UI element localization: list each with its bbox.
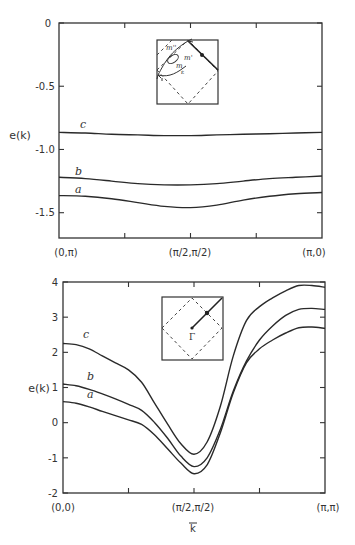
curve-c <box>59 132 322 135</box>
top-ytick-1: -0.5 <box>35 81 55 92</box>
bottom-inset-label-gamma: Γ <box>189 332 195 342</box>
top-inset-label-eps: ε <box>181 68 184 75</box>
bottom-xtick-2: (π,π) <box>316 502 339 513</box>
top-inset-label-m2: m'' <box>166 44 177 52</box>
top-ytick-0: 0 <box>45 18 51 29</box>
top-chart: 0 -0.5 -1.0 -1.5 e(k) (0,π) (π/2,π/2) (π… <box>9 18 326 258</box>
bottom-ylabel: e(k) <box>28 382 50 395</box>
top-series-label-a: a <box>75 183 82 196</box>
top-xtick-0: (0,π) <box>54 247 77 258</box>
top-ytick-3: -1.5 <box>35 207 55 218</box>
top-ytick-2: -1.0 <box>35 144 55 155</box>
bottom-ytick-m2: -2 <box>48 488 58 499</box>
curve-b <box>59 176 322 185</box>
top-inset-label-m1: m' <box>184 54 193 62</box>
bottom-inset-brillouin-zone: Γ <box>162 297 223 360</box>
bottom-ytick-1: 1 <box>52 382 58 393</box>
bottom-xlabel: k <box>190 523 196 534</box>
bottom-series-label-c: c <box>83 328 89 341</box>
top-inset-brillouin-zone: m'' m' m ε <box>157 39 218 104</box>
figure: 0 -0.5 -1.0 -1.5 e(k) (0,π) (π/2,π/2) (π… <box>0 0 355 545</box>
bottom-xtick-1: (π/2,π/2) <box>172 502 215 513</box>
bottom-ytick-m1: -1 <box>48 453 58 464</box>
top-series-label-b: b <box>75 165 82 178</box>
bottom-ytick-4: 4 <box>52 277 58 288</box>
top-series-label-c: c <box>80 118 86 131</box>
top-ylabel: e(k) <box>9 129 31 142</box>
top-inset-point <box>200 53 204 57</box>
bottom-ytick-2: 2 <box>52 347 58 358</box>
bottom-inset-point <box>205 311 209 315</box>
bottom-ytick-0: 0 <box>52 417 58 428</box>
gamma-point <box>190 326 193 329</box>
top-xtick-1: (π/2,π/2) <box>169 247 212 258</box>
bottom-ytick-3: 3 <box>52 312 58 323</box>
bottom-xtick-0: (0,0) <box>51 502 75 513</box>
bottom-chart: 4 3 2 1 0 -1 -2 e(k) (0,0) (π/2,π/2) (π,… <box>28 277 339 534</box>
top-xtick-2: (π,0) <box>302 247 325 258</box>
bottom-series-label-a: a <box>87 388 94 401</box>
top-curves <box>59 132 322 207</box>
bottom-series-label-b: b <box>87 370 94 383</box>
curve-a <box>59 193 322 208</box>
